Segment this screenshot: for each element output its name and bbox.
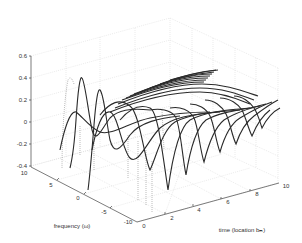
svg-text:0: 0 [24, 119, 28, 125]
svg-text:4: 4 [197, 207, 201, 213]
time-tick-labels: 0 2 4 6 8 10 [142, 183, 290, 229]
svg-text:0.4: 0.4 [19, 75, 28, 81]
svg-text:-5: -5 [101, 209, 107, 215]
svg-text:0: 0 [76, 195, 80, 201]
frequency-tick-labels: 10 5 0 -5 -10 [21, 170, 133, 225]
z-tick-labels: 0.6 0.4 0.2 0 -0.2 -0.4 [17, 53, 28, 169]
svg-text:-0.4: -0.4 [17, 163, 28, 169]
svg-text:6: 6 [226, 199, 230, 205]
svg-text:0: 0 [142, 223, 146, 229]
svg-text:-10: -10 [124, 219, 133, 225]
svg-text:5: 5 [49, 182, 53, 188]
svg-text:0.6: 0.6 [19, 53, 28, 59]
svg-text:0.2: 0.2 [19, 97, 28, 103]
svg-text:2: 2 [170, 215, 174, 221]
svg-text:-0.2: -0.2 [17, 141, 28, 147]
svg-text:10: 10 [21, 170, 28, 176]
svg-text:8: 8 [255, 191, 259, 197]
svg-text:10: 10 [283, 183, 290, 189]
3d-line-plot: 0.6 0.4 0.2 0 -0.2 -0.4 10 5 0 -5 -10 0 … [0, 0, 302, 243]
time-axis-label: time (location bₘ) [219, 227, 266, 233]
frequency-axis-label: frequency (ω) [54, 223, 91, 229]
